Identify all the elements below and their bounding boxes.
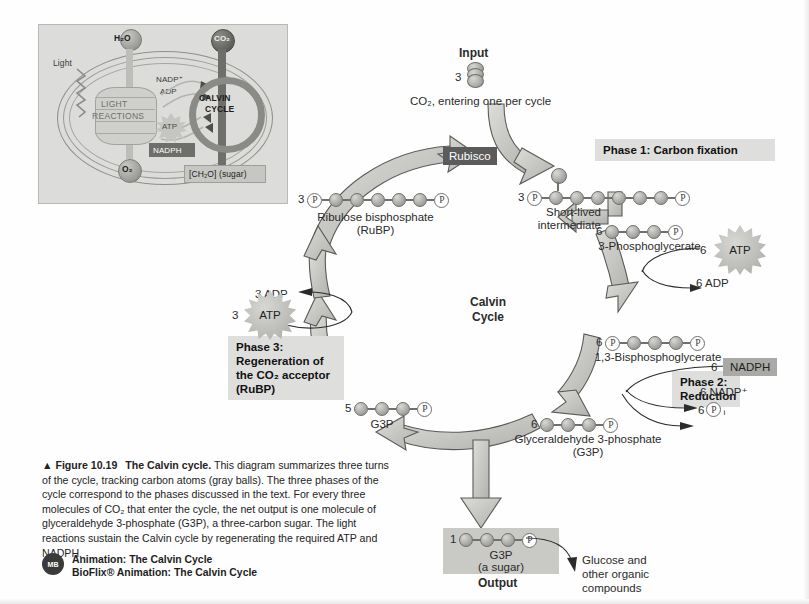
input-count: 3 <box>455 70 461 84</box>
inset-h2o-label: H₂O <box>114 33 131 43</box>
inset-atp-label: ATP <box>162 122 177 131</box>
carbon-ball <box>647 225 661 239</box>
atp-phase3-count: 3 <box>232 308 238 322</box>
center-label-line2: Cycle <box>472 310 504 324</box>
page-edge-right <box>804 0 809 604</box>
glucose-line2: other organic <box>582 567 649 581</box>
caption-figure-title: The Calvin cycle. <box>125 459 211 471</box>
molecule-g3p-left: 5 P <box>345 400 432 418</box>
pi-phase2-group: 6 P i <box>698 402 725 417</box>
carbon-ball <box>627 336 641 350</box>
intermediate-branch-carbon <box>551 168 567 184</box>
carbon-ball <box>371 193 385 207</box>
molecule-short-lived-intermediate: 3 P P <box>518 189 690 207</box>
glucose-line3: compounds <box>582 581 641 595</box>
rubp-name-line2: (RuBP) <box>303 224 448 237</box>
figure-caption: ▲ Figure 10.19 The Calvin cycle. This di… <box>42 458 392 560</box>
intermediate-name-line1: Short-lived <box>491 206 601 219</box>
rubisco-enzyme-label: Rubisco <box>443 147 497 165</box>
carbon-ball <box>459 533 473 547</box>
carbon-ball <box>648 336 662 350</box>
inset-light-label: Light <box>53 58 72 68</box>
atp-phase2-count: 6 <box>700 243 706 257</box>
input-co2-ball-3 <box>467 74 484 88</box>
carbon-ball <box>605 225 619 239</box>
phase-3-line1: Phase 3: <box>236 340 336 354</box>
phosphate-icon: P <box>434 193 449 208</box>
animation-link-2[interactable]: BioFlix® Animation: The Calvin Cycle <box>72 566 257 579</box>
intermediate-count: 3 <box>518 192 524 204</box>
carbon-ball <box>354 402 368 416</box>
mastering-biology-badge-icon: MB <box>42 553 64 575</box>
center-label-line1: Calvin <box>470 295 506 309</box>
carbon-ball <box>480 533 494 547</box>
inset-nadph-label: NADPH <box>153 146 182 155</box>
phase-3-line4: (RuBP) <box>236 382 336 396</box>
phosphate-icon: P <box>527 191 542 206</box>
nadph-phase2-count: 6 <box>711 360 717 374</box>
carbon-ball <box>540 418 554 432</box>
phase-3-label: Phase 3: Regeneration of the CO₂ accepto… <box>228 336 344 400</box>
phase-1-label: Phase 1: Carbon fixation <box>595 139 775 161</box>
caption-figure-number: Figure 10.19 <box>55 459 117 471</box>
phosphate-icon: P <box>668 225 683 240</box>
molecule-g3p-right: 6 P <box>531 416 618 434</box>
phosphate-icon: P <box>307 193 322 208</box>
adp-phase2-label: 6 ADP <box>696 276 729 290</box>
rubp-count: 3 <box>298 194 304 206</box>
carbon-ball <box>591 191 605 205</box>
animation-link-1[interactable]: Animation: The Calvin Cycle <box>72 553 212 566</box>
inset-sugar-label: [CH₂O] (sugar) <box>189 169 247 179</box>
carbon-ball <box>501 533 515 547</box>
carbon-ball <box>329 193 343 207</box>
input-label: Input <box>459 46 488 60</box>
inset-calvin-line1: CALVIN <box>199 93 231 103</box>
carbon-ball <box>350 193 364 207</box>
inset-calvin-line2: CYCLE <box>205 104 234 114</box>
light-reactions-inset: H₂O CO₂ Light LIGHT REACTIONS NADP⁺ ADP <box>38 24 288 204</box>
phosphate-icon: P <box>605 336 620 351</box>
phosphate-icon: P <box>417 402 432 417</box>
carbon-ball <box>612 191 626 205</box>
inset-o2-label: O₂ <box>122 164 133 174</box>
molecule-bisphosphoglycerate: 6 P P <box>596 334 705 352</box>
atp-phase2-label: ATP <box>729 244 751 256</box>
phosphate-icon: P <box>675 191 690 206</box>
input-caption: CO₂, entering one per cycle <box>410 94 551 108</box>
molecule-3-phosphoglycerate: 6 P <box>596 223 683 241</box>
output-label: Output <box>478 576 517 590</box>
carbon-ball <box>413 193 427 207</box>
g3p-left-count: 5 <box>345 403 351 415</box>
g3p-out-count: 1 <box>450 534 456 546</box>
carbon-ball <box>396 402 410 416</box>
g3p-left-name: G3P <box>352 418 412 431</box>
phosphate-icon: P <box>690 336 705 351</box>
phase-3-line2: Regeneration of <box>236 354 336 368</box>
carbon-ball <box>669 336 683 350</box>
carbon-ball <box>392 193 406 207</box>
phosphate-icon: P <box>603 418 618 433</box>
carbon-ball <box>549 191 563 205</box>
carbon-ball <box>654 191 668 205</box>
inset-calvin-cycle-ring <box>189 77 265 153</box>
phosphate-icon: P <box>706 402 721 417</box>
arrow-bpg-to-g3p <box>552 334 600 416</box>
molecule-rubp: 3 P P <box>298 191 449 209</box>
carbon-ball <box>626 225 640 239</box>
intermediate-name-line2: intermediate <box>491 219 601 232</box>
nadph-phase2-box: NADPH <box>723 358 777 376</box>
carbon-ball <box>570 191 584 205</box>
atp-phase3-label: ATP <box>259 309 281 321</box>
g3p-right-name-line1: Glyceraldehyde 3-phosphate <box>478 433 698 446</box>
caption-arrow-marker: ▲ <box>42 459 53 471</box>
pga-count: 6 <box>596 226 602 238</box>
pi-phase2-subscript: i <box>723 408 725 417</box>
caption-body: This diagram summarizes three turns of t… <box>42 459 389 559</box>
figure-page: H₂O CO₂ Light LIGHT REACTIONS NADP⁺ ADP <box>0 0 809 604</box>
g3p-right-count: 6 <box>531 419 537 431</box>
nadp-phase2-label: 6 NADP⁺ <box>700 385 748 399</box>
inset-light-reactions-line2: REACTIONS <box>92 111 144 121</box>
rubp-name-line1: Ribulose bisphosphate <box>303 211 448 224</box>
inset-light-reactions-line1: LIGHT <box>101 99 128 109</box>
inset-co2-label: CO₂ <box>214 34 230 43</box>
